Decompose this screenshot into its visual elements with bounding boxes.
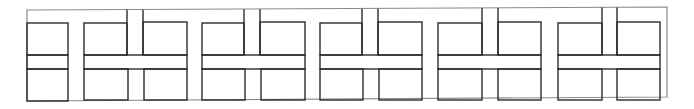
block-3-lower-left-box bbox=[320, 69, 363, 100]
block-3-horizontal-band bbox=[320, 55, 422, 69]
block-5-upper-right-box bbox=[617, 22, 660, 55]
tile-pattern-diagram bbox=[0, 0, 694, 109]
block-4-upper-left-box bbox=[438, 23, 482, 55]
block-2-lower-left-box bbox=[202, 69, 245, 100]
block-3-lower-right-box bbox=[379, 69, 422, 100]
block-2-horizontal-band bbox=[202, 55, 305, 69]
block-5-upper-left-box bbox=[558, 23, 602, 55]
block-1-upper-left-box bbox=[84, 23, 127, 55]
left-column-box-2 bbox=[27, 55, 68, 69]
block-5-lower-right-box bbox=[617, 69, 660, 100]
block-4-horizontal-band bbox=[438, 55, 541, 69]
block-1-upper-right-box bbox=[143, 22, 187, 55]
block-2-upper-right-box bbox=[260, 22, 305, 55]
block-4-lower-right-box bbox=[498, 69, 541, 100]
outer-frame bbox=[27, 7, 667, 101]
block-4-lower-left-box bbox=[438, 69, 482, 100]
block-1-horizontal-band bbox=[84, 55, 187, 69]
block-4-upper-right-box bbox=[498, 22, 541, 55]
block-2-lower-right-box bbox=[261, 69, 305, 100]
pattern-canvas bbox=[0, 0, 694, 109]
block-5-horizontal-band bbox=[558, 55, 660, 69]
block-1-lower-right-box bbox=[144, 69, 187, 100]
block-2-upper-left-box bbox=[202, 23, 244, 55]
left-column-box-1 bbox=[27, 23, 68, 55]
block-1-lower-left-box bbox=[84, 69, 128, 100]
block-5-lower-left-box bbox=[558, 69, 602, 100]
block-3-upper-right-box bbox=[378, 22, 422, 55]
block-3-upper-left-box bbox=[320, 23, 362, 55]
left-column-box-3 bbox=[27, 69, 68, 101]
